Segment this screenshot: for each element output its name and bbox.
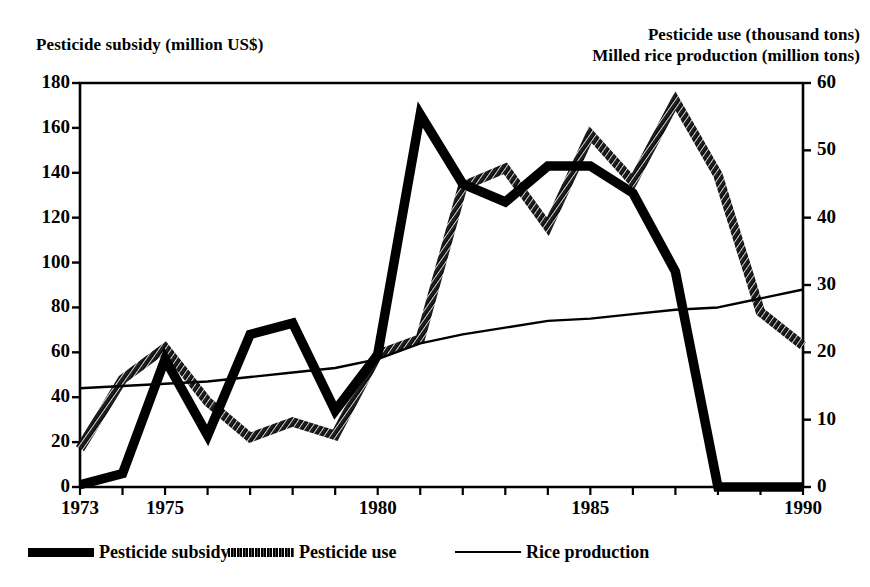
right-axis-title: Pesticide use (thousand tons) Milled ric… [592, 24, 860, 66]
legend-item[interactable]: Pesticide subsidy [28, 540, 230, 564]
left-axis-tick-label: 180 [10, 71, 70, 93]
right-axis-tick-label: 50 [817, 138, 867, 160]
left-axis-tick-label: 160 [10, 116, 70, 138]
right-axis-tick-label: 0 [817, 475, 867, 497]
legend-label: Rice production [526, 542, 649, 563]
legend-item[interactable]: Rice production [455, 540, 649, 564]
left-axis-tick-label: 120 [10, 206, 70, 228]
x-axis-tick-label: 1980 [348, 497, 408, 519]
legend-swatch-pesticide-use [228, 548, 294, 557]
legend-swatch-rice-production [455, 551, 521, 553]
left-axis-tick-label: 0 [10, 475, 70, 497]
x-axis-tick-label: 1975 [135, 497, 195, 519]
x-axis-tick-label: 1990 [773, 497, 833, 519]
legend-item[interactable]: Pesticide use [228, 540, 396, 564]
chart-legend: Pesticide subsidyPesticide useRice produ… [0, 540, 870, 570]
right-axis-tick-label: 10 [817, 408, 867, 430]
plot-area [0, 0, 870, 587]
legend-label: Pesticide use [299, 542, 396, 563]
left-axis-tick-label: 40 [10, 385, 70, 407]
series-pesticide-subsidy [80, 114, 803, 487]
right-axis-tick-label: 40 [817, 206, 867, 228]
right-axis-title-line2: Milled rice production (million tons) [592, 45, 860, 66]
right-axis-title-line1: Pesticide use (thousand tons) [592, 24, 860, 45]
x-axis-tick-label: 1973 [50, 497, 110, 519]
left-axis-title: Pesticide subsidy (million US$) [36, 34, 263, 55]
left-axis-tick-label: 140 [10, 161, 70, 183]
legend-label: Pesticide subsidy [99, 542, 230, 563]
left-axis-tick-label: 80 [10, 295, 70, 317]
left-axis-tick-label: 100 [10, 251, 70, 273]
left-axis-tick-label: 20 [10, 430, 70, 452]
right-axis-tick-label: 20 [817, 340, 867, 362]
chart-figure: Pesticide subsidy (million US$) Pesticid… [0, 0, 870, 587]
legend-swatch-pesticide-subsidy [28, 548, 94, 557]
right-axis-tick-label: 60 [817, 71, 867, 93]
x-axis-tick-label: 1985 [560, 497, 620, 519]
right-axis-tick-label: 30 [817, 273, 867, 295]
left-axis-tick-label: 60 [10, 340, 70, 362]
